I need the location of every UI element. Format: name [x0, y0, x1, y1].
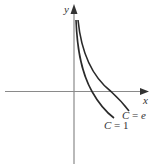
curve-label-c-1: C = 1 [104, 119, 129, 131]
y-axis-label: y [63, 3, 69, 15]
x-axis-label: x [142, 94, 148, 106]
graph-canvas: x y C = e C = 1 [0, 0, 153, 164]
curve-c-e [78, 20, 129, 111]
curve-c-1 [76, 20, 114, 118]
y-axis-arrow-icon [71, 4, 78, 14]
